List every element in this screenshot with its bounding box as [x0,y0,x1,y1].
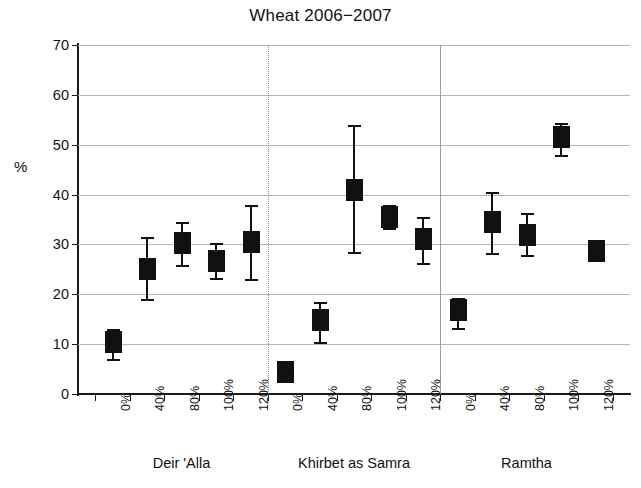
group-separator-2 [440,45,441,394]
group-label: Ramtha [501,455,552,471]
data-marker [277,361,294,383]
gridline-y-10 [78,344,630,345]
error-bar-cap-lower [452,328,465,330]
x-tick-label: 40% [326,386,340,411]
x-tick-label: 0% [464,393,478,411]
data-marker [381,206,398,228]
x-tick-label: 0% [119,393,133,411]
error-bar-cap-upper [314,302,327,304]
y-tick-label: 50 [53,137,69,153]
y-tick-label: 10 [53,336,69,352]
y-tick-mark [72,145,78,146]
group-separator-1 [268,45,269,394]
data-marker [174,232,191,254]
y-tick-mark [72,195,78,196]
error-bar-cap-upper [245,205,258,207]
y-tick-label: 70 [53,37,69,53]
gridline-y-60 [78,95,630,96]
y-tick-label: 30 [53,236,69,252]
x-tick-label: 100% [567,379,581,411]
x-tick-label: 100% [222,379,236,411]
error-bar-cap-upper [348,125,361,127]
chart-title: Wheat 2006−2007 [0,6,641,26]
data-marker [243,231,260,253]
y-tick-label: 60 [53,87,69,103]
error-bar-cap-lower [383,228,396,230]
error-bar-cap-lower [486,253,499,255]
error-bar-cap-upper [141,237,154,239]
x-tick-mark [95,394,96,401]
x-tick-label: 80% [533,386,547,411]
data-marker [588,240,605,262]
error-bar-cap-upper [210,243,223,245]
y-tick-mark [72,294,78,295]
data-marker [519,224,536,246]
error-bar-cap-upper [486,192,499,194]
x-tick-label: 40% [498,386,512,411]
y-tick-mark [72,244,78,245]
y-tick-label: 0 [61,386,69,402]
x-tick-label: 80% [188,386,202,411]
data-marker [208,250,225,272]
y-tick-mark [72,394,78,395]
error-bar-cap-lower [107,359,120,361]
group-label: Deir 'Alla [153,455,211,471]
data-marker [105,331,122,353]
error-bar-cap-upper [521,213,534,215]
y-tick-mark [72,45,78,46]
y-tick-label: 20 [53,286,69,302]
error-bar-cap-upper [176,222,189,224]
chart-figure: Wheat 2006−2007 % 0102030405060700%40%80… [0,0,641,488]
error-bar-cap-lower [417,263,430,265]
error-bar-cap-lower [141,299,154,301]
error-bar-cap-lower [521,255,534,257]
y-tick-mark [72,95,78,96]
y-tick-mark [72,344,78,345]
data-marker [415,228,432,250]
plot-area: 0102030405060700%40%80%100%120%0%40%80%1… [78,45,630,394]
error-bar-cap-lower [176,265,189,267]
error-bar-cap-lower [314,342,327,344]
data-marker [139,258,156,280]
x-tick-label: 40% [153,386,167,411]
error-bar-cap-lower [555,155,568,157]
x-tick-label: 120% [257,379,271,411]
x-tick-label: 120% [602,379,616,411]
data-marker [450,299,467,321]
error-bar-cap-upper [417,217,430,219]
gridline-y-20 [78,294,630,295]
error-bar-cap-upper [555,123,568,125]
data-marker [553,126,570,148]
y-tick-label: 40 [53,187,69,203]
data-marker [484,211,501,233]
gridline-y-70 [78,45,630,46]
x-tick-label: 100% [395,379,409,411]
error-bar-cap-lower [348,252,361,254]
error-bar-cap-lower [245,279,258,281]
x-tick-label: 0% [291,393,305,411]
data-marker [346,179,363,201]
group-label: Khirbet as Samra [298,455,410,471]
error-bar-cap-lower [210,278,223,280]
x-tick-label: 120% [429,379,443,411]
x-tick-label: 80% [360,386,374,411]
y-axis-title: % [14,158,27,175]
data-marker [312,309,329,331]
